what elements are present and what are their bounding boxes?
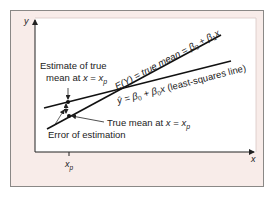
y-axis: y xyxy=(23,16,35,152)
true-mean-point xyxy=(67,114,71,118)
x-axis-label: x xyxy=(250,154,256,164)
estimate-point xyxy=(66,100,70,104)
xp-tick-label: xp xyxy=(64,159,74,172)
error-label: Error of estimation xyxy=(48,129,126,140)
y-axis-label: y xyxy=(23,16,29,26)
x-axis: x xp xyxy=(35,152,256,172)
estimate-label-line1: Estimate of true xyxy=(40,60,107,71)
regression-diagram: y x xp Estimate of true mean at x = xp E… xyxy=(0,0,273,198)
